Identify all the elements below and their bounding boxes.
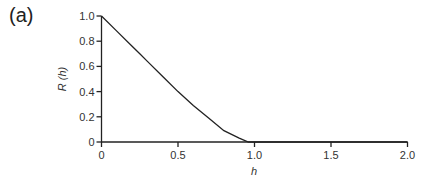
y-tick-label: 0.4 <box>79 86 94 98</box>
series-line <box>102 16 408 142</box>
x-tick-label: 1.0 <box>247 149 262 161</box>
x-tick-label: 2.0 <box>400 149 415 161</box>
y-tick-label: 1.0 <box>79 10 94 22</box>
y-axis-title: R (h) <box>56 66 68 91</box>
y-tick-label: 0 <box>88 136 94 148</box>
x-tick-label: 1.5 <box>323 149 338 161</box>
y-tick-label: 0.8 <box>79 35 94 47</box>
x-tick-label: 0 <box>98 149 104 161</box>
x-tick-label: 0.5 <box>170 149 185 161</box>
x-axis-title: h <box>251 165 257 177</box>
y-tick-label: 0.6 <box>79 60 94 72</box>
chart: 00.51.01.52.000.20.40.60.81.0 h R (h) <box>0 0 433 183</box>
axes <box>102 16 408 142</box>
y-tick-label: 0.2 <box>79 111 94 123</box>
ticks: 00.51.01.52.000.20.40.60.81.0 <box>79 10 415 161</box>
